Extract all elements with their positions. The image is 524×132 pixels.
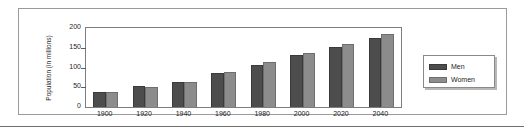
x-tick-label: 1900 bbox=[85, 109, 124, 119]
y-axis-title-text: Population (in millions) bbox=[45, 35, 52, 100]
chart-legend: MenWomen bbox=[423, 55, 495, 88]
legend-swatch-women bbox=[429, 77, 447, 83]
y-tick-label: 200 bbox=[55, 23, 81, 31]
plot-area bbox=[85, 27, 402, 108]
bar-women-1980 bbox=[263, 62, 276, 107]
bottom-divider bbox=[0, 126, 524, 127]
figure-frame: Population (in millions) 050100150200 19… bbox=[18, 8, 507, 115]
x-tick-label: 1960 bbox=[203, 109, 242, 119]
y-tick-label: 0 bbox=[55, 102, 81, 110]
y-tick-label: 150 bbox=[55, 43, 81, 51]
y-tick-label: 50 bbox=[55, 82, 81, 90]
bar-women-2020 bbox=[342, 44, 355, 107]
legend-label-women: Women bbox=[451, 76, 475, 83]
x-axis-tick-labels: 19001920194019601980200020202040 bbox=[85, 109, 400, 121]
bar-women-1940 bbox=[184, 82, 197, 107]
x-tick-label: 1920 bbox=[124, 109, 163, 119]
bar-women-1920 bbox=[145, 87, 158, 107]
x-tick-label: 2000 bbox=[282, 109, 321, 119]
bar-men-2000 bbox=[290, 55, 303, 107]
bar-men-1920 bbox=[133, 86, 146, 107]
bar-men-2020 bbox=[329, 47, 342, 107]
y-tick-label: 100 bbox=[55, 63, 81, 71]
bar-women-1900 bbox=[106, 92, 119, 107]
y-axis-title: Population (in millions) bbox=[41, 27, 55, 109]
legend-swatch-men bbox=[429, 64, 447, 70]
y-tick-mark bbox=[81, 87, 86, 88]
y-tick-mark bbox=[81, 48, 86, 49]
bar-women-1960 bbox=[224, 72, 237, 107]
x-tick-label: 2040 bbox=[361, 109, 400, 119]
bar-men-1940 bbox=[172, 82, 185, 107]
y-tick-mark bbox=[81, 68, 86, 69]
x-tick-label: 1980 bbox=[243, 109, 282, 119]
legend-label-men: Men bbox=[451, 63, 465, 70]
bar-women-2000 bbox=[303, 53, 316, 107]
x-tick-label: 1940 bbox=[164, 109, 203, 119]
x-tick-label: 2020 bbox=[321, 109, 360, 119]
legend-item-women: Women bbox=[429, 74, 475, 85]
bar-men-1900 bbox=[93, 92, 106, 107]
bar-men-1980 bbox=[251, 65, 264, 107]
bars-container bbox=[86, 28, 401, 107]
bar-women-2040 bbox=[381, 34, 394, 107]
bar-men-1960 bbox=[211, 73, 224, 107]
y-axis-tick-labels: 050100150200 bbox=[55, 23, 81, 111]
bar-men-2040 bbox=[369, 38, 382, 107]
legend-item-men: Men bbox=[429, 61, 465, 72]
